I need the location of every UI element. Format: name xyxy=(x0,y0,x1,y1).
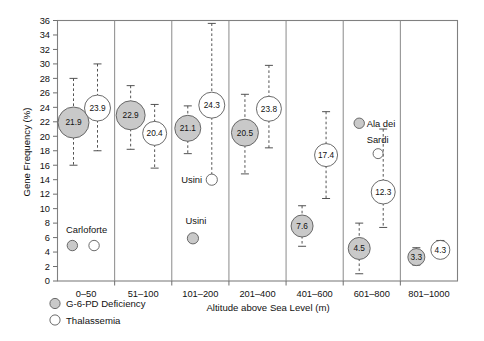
y-tick-label: 4 xyxy=(45,247,50,257)
bubble-thalassemia: 4.3 xyxy=(431,240,450,259)
chart-figure: 024681012141618202224262830323436 0–5051… xyxy=(0,0,484,341)
bubble-g6pd: 7.6 xyxy=(291,215,313,237)
x-category-label: 601–800 xyxy=(354,289,390,299)
bubble-value-label: 17.4 xyxy=(318,150,335,160)
bubble-value-label: 20.5 xyxy=(237,128,254,138)
y-axis-tick-labels: 024681012141618202224262830323436 xyxy=(40,16,50,287)
gene-frequency-scatter-chart: 024681012141618202224262830323436 0–5051… xyxy=(0,0,484,341)
annotation-usini-g6pd: Usini xyxy=(186,215,207,226)
bubble-value-label: 3.3 xyxy=(411,252,423,262)
plot-area-border xyxy=(58,21,458,282)
y-tick-label: 14 xyxy=(40,175,50,185)
annotation-usini-thalassemia: Usini xyxy=(181,174,202,185)
annotation-marker-aladeisardi-g6pd xyxy=(354,118,364,128)
annotation-aladeisardi-line2: Sardi xyxy=(367,134,389,145)
y-tick-label: 8 xyxy=(45,218,50,228)
legend-marker-g6pd-icon xyxy=(50,298,60,308)
bubble-g6pd: 3.3 xyxy=(408,249,425,266)
bubble-value-label: 4.3 xyxy=(435,245,447,255)
bubble-g6pd: 21.9 xyxy=(58,107,89,138)
bubble-g6pd: 21.1 xyxy=(175,115,201,141)
y-tick-label: 32 xyxy=(40,45,50,55)
bubble-thalassemia: 23.9 xyxy=(85,95,111,121)
bubble-value-label: 24.3 xyxy=(204,100,221,110)
x-category-label: 801–1000 xyxy=(408,289,449,299)
y-tick-label: 24 xyxy=(40,103,50,113)
bubble-value-label: 20.4 xyxy=(147,128,164,138)
annotation-carloforte: Carloforte xyxy=(66,224,107,235)
y-tick-label: 18 xyxy=(40,146,50,156)
y-axis-title: Gene Frequency (%) xyxy=(21,107,32,196)
legend-label-g6pd: G-6-PD Deficiency xyxy=(66,298,146,309)
y-tick-label: 22 xyxy=(40,117,50,127)
y-tick-label: 26 xyxy=(40,88,50,98)
bubble-g6pd: 4.5 xyxy=(348,237,370,259)
y-tick-label: 0 xyxy=(45,276,50,286)
x-category-label: 51–100 xyxy=(128,289,159,299)
y-tick-label: 28 xyxy=(40,74,50,84)
y-tick-label: 30 xyxy=(40,59,50,69)
annotation-marker-usini-g6pd xyxy=(187,233,198,244)
y-tick-label: 20 xyxy=(40,132,50,142)
legend: G-6-PD Deficiency Thalassemia xyxy=(50,298,146,326)
bubble-thalassemia: 23.8 xyxy=(256,96,281,121)
legend-marker-thalassemia-icon xyxy=(50,315,60,325)
y-tick-label: 6 xyxy=(45,233,50,243)
bubble-value-label: 7.6 xyxy=(296,221,308,231)
x-category-label: 401–600 xyxy=(297,289,333,299)
y-axis-ticks xyxy=(53,21,58,282)
annotation-aladeisardi-line1: Ala dei xyxy=(367,118,396,129)
x-category-label: 0–50 xyxy=(76,289,97,299)
bubble-value-label: 22.9 xyxy=(123,110,140,120)
legend-label-thalassemia: Thalassemia xyxy=(66,315,121,326)
bubble-thalassemia: 20.4 xyxy=(143,121,167,145)
y-tick-label: 36 xyxy=(40,16,50,26)
x-category-label: 101–200 xyxy=(182,289,218,299)
y-tick-label: 16 xyxy=(40,161,50,171)
annotation-marker-carloforte-thal xyxy=(89,240,99,250)
y-tick-label: 34 xyxy=(40,30,50,40)
x-axis-ticks xyxy=(115,281,401,286)
bubble-g6pd: 22.9 xyxy=(116,101,145,130)
bubble-thalassemia: 17.4 xyxy=(315,144,338,167)
bubble-value-label: 4.5 xyxy=(353,243,365,253)
y-tick-label: 2 xyxy=(45,262,50,272)
annotation-marker-carloforte-g6pd xyxy=(67,240,77,250)
bubble-value-label: 21.9 xyxy=(65,117,82,127)
plot-frame xyxy=(58,21,458,282)
y-tick-label: 12 xyxy=(40,189,50,199)
x-axis-category-labels: 0–5051–100101–200201–400401–600601–80080… xyxy=(76,289,450,299)
bubble-g6pd: 20.5 xyxy=(231,119,258,146)
y-tick-label: 10 xyxy=(40,204,50,214)
annotation-marker-aladeisardi-thal xyxy=(373,149,383,159)
bubble-value-label: 21.1 xyxy=(180,123,197,133)
x-axis-title: Altitude above Sea Level (m) xyxy=(206,302,329,313)
x-category-label: 201–400 xyxy=(239,289,275,299)
bubble-thalassemia: 12.3 xyxy=(371,180,395,204)
bubble-thalassemia: 24.3 xyxy=(199,92,225,118)
bubble-value-label: 12.3 xyxy=(375,187,392,197)
bubble-value-label: 23.9 xyxy=(89,103,106,113)
annotation-marker-usini-thal xyxy=(206,174,217,185)
bubble-value-label: 23.8 xyxy=(261,104,278,114)
